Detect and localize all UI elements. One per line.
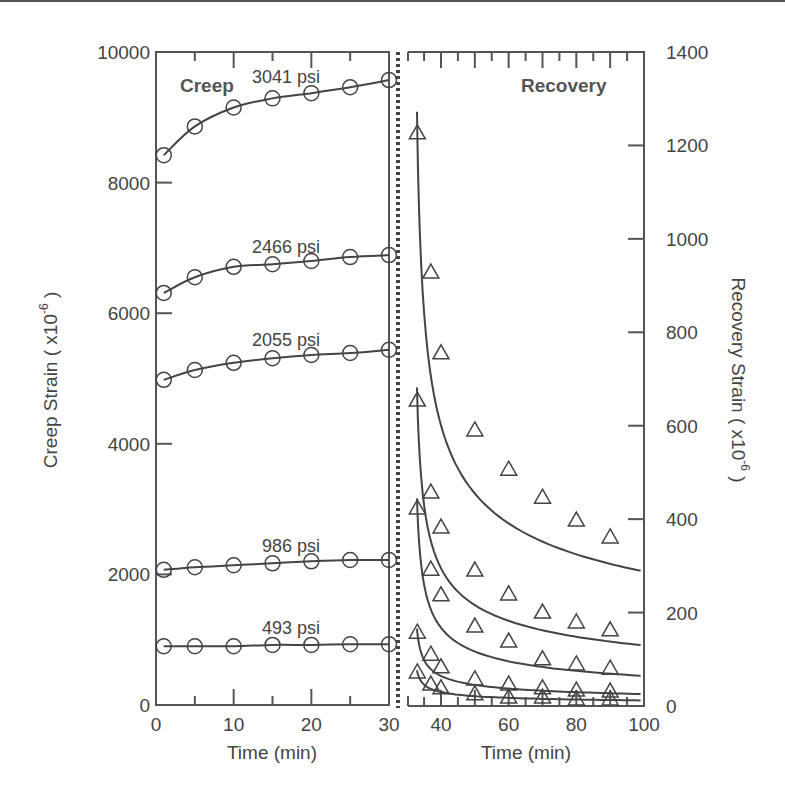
triangle-marker bbox=[535, 651, 551, 665]
creep-series-986-psi bbox=[156, 553, 396, 578]
recovery-series-493-psi bbox=[409, 664, 640, 705]
x-tick-label: 100 bbox=[628, 714, 660, 735]
y-tick-label: 800 bbox=[666, 322, 698, 343]
triangle-marker bbox=[568, 512, 584, 526]
triangle-marker bbox=[433, 519, 449, 533]
y-tick-label: 4000 bbox=[108, 434, 150, 455]
x-tick-label: 80 bbox=[566, 714, 587, 735]
svg-text:Recovery Strain ( x10-6 ): Recovery Strain ( x10-6 ) bbox=[728, 278, 752, 483]
triangle-marker bbox=[602, 660, 618, 674]
triangle-marker bbox=[535, 604, 551, 618]
recovery-axes: 4060801000200400600800100012001400 bbox=[408, 42, 708, 735]
triangle-marker bbox=[467, 618, 483, 632]
y-tick-label: 600 bbox=[666, 416, 698, 437]
recovery-panel-label: Recovery bbox=[521, 75, 607, 96]
series-label-493: 493 psi bbox=[262, 618, 320, 638]
y-tick-label: 0 bbox=[139, 695, 150, 716]
triangle-marker bbox=[433, 345, 449, 359]
y-tick-label: 1200 bbox=[666, 135, 708, 156]
recovery-plot-frame bbox=[408, 52, 644, 706]
triangle-marker bbox=[568, 614, 584, 628]
fit-curve bbox=[417, 498, 641, 675]
series-label-2466: 2466 psi bbox=[252, 237, 320, 257]
triangle-marker bbox=[467, 422, 483, 436]
svg-text:Creep Strain ( x10-6 ): Creep Strain ( x10-6 ) bbox=[37, 292, 61, 468]
x-tick-label: 30 bbox=[378, 714, 399, 735]
x-tick-label: 0 bbox=[151, 714, 162, 735]
recovery-x-axis-title: Time (min) bbox=[481, 742, 571, 763]
triangle-marker bbox=[433, 587, 449, 601]
triangle-marker bbox=[467, 562, 483, 576]
recovery-series-2466-psi bbox=[409, 387, 640, 645]
series-label-2055: 2055 psi bbox=[252, 330, 320, 350]
creep-recovery-chart: 01020300200040006000800010000 4060801000… bbox=[0, 0, 785, 803]
triangle-marker bbox=[602, 529, 618, 543]
series-label-3041: 3041 psi bbox=[252, 67, 320, 87]
x-tick-label: 60 bbox=[498, 714, 519, 735]
series-label-986: 986 psi bbox=[262, 536, 320, 556]
triangle-marker bbox=[501, 633, 517, 647]
y-tick-label: 200 bbox=[666, 603, 698, 624]
creep-panel-label: Creep bbox=[180, 75, 234, 96]
y-tick-label: 1000 bbox=[666, 229, 708, 250]
y-tick-label: 6000 bbox=[108, 303, 150, 324]
fit-curve bbox=[164, 644, 389, 646]
y-tick-label: 10000 bbox=[97, 42, 150, 63]
x-tick-label: 40 bbox=[430, 714, 451, 735]
triangle-marker bbox=[535, 489, 551, 503]
triangle-marker bbox=[602, 622, 618, 636]
recovery-series-3041-psi bbox=[409, 112, 640, 571]
triangle-marker bbox=[501, 586, 517, 600]
recovery-y-axis-title: Recovery Strain ( x10-6 ) bbox=[728, 278, 752, 483]
triangle-marker bbox=[423, 264, 439, 278]
creep-series-493-psi bbox=[156, 637, 396, 654]
y-tick-label: 2000 bbox=[108, 564, 150, 585]
triangle-marker bbox=[423, 646, 439, 660]
creep-y-axis-title: Creep Strain ( x10-6 ) bbox=[37, 292, 61, 468]
y-tick-label: 400 bbox=[666, 509, 698, 530]
recovery-series bbox=[409, 112, 640, 705]
x-tick-label: 10 bbox=[223, 714, 244, 735]
creep-axes: 01020300200040006000800010000 bbox=[97, 42, 399, 735]
fit-curve bbox=[417, 387, 641, 645]
fit-curve bbox=[417, 112, 641, 571]
triangle-marker bbox=[467, 671, 483, 685]
triangle-marker bbox=[568, 656, 584, 670]
y-tick-label: 0 bbox=[666, 696, 677, 717]
x-tick-label: 20 bbox=[301, 714, 322, 735]
y-tick-label: 1400 bbox=[666, 42, 708, 63]
triangle-marker bbox=[501, 461, 517, 475]
triangle-marker bbox=[423, 561, 439, 575]
creep-series bbox=[156, 73, 396, 654]
fit-curve bbox=[164, 255, 389, 293]
y-tick-label: 8000 bbox=[108, 173, 150, 194]
triangle-marker bbox=[423, 484, 439, 498]
creep-plot-frame bbox=[156, 52, 389, 705]
creep-x-axis-title: Time (min) bbox=[227, 742, 317, 763]
